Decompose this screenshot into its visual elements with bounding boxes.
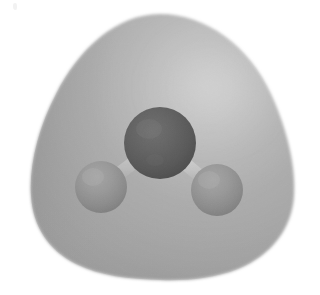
figure-canvas: Water molecule electron density surface … [0,0,320,295]
molecule-scene [0,0,320,295]
scan-grain-overlay [0,0,320,295]
scan-speck [13,3,17,10]
